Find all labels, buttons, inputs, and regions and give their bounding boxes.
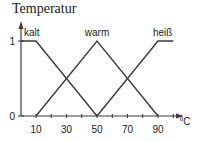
series-label: kalt	[24, 27, 40, 38]
series-line-hei	[97, 41, 173, 116]
series-label: warm	[84, 27, 109, 38]
series-label: heiß	[153, 27, 172, 38]
x-tick-label: 30	[61, 124, 73, 135]
x-tick-label: 90	[152, 124, 164, 135]
fuzzy-membership-chart: 011030507090°Ckaltwarmheiß	[0, 0, 197, 142]
x-tick-label: 50	[91, 124, 103, 135]
x-tick-label: 70	[122, 124, 134, 135]
x-axis-label: °C	[179, 116, 190, 127]
x-tick-label: 10	[30, 124, 42, 135]
series-line-warm	[36, 41, 158, 116]
y-axis-arrow-icon	[19, 21, 24, 29]
series-line-kalt	[21, 41, 97, 116]
y-tick-label: 1	[9, 36, 15, 47]
y-tick-label: 0	[9, 111, 15, 122]
